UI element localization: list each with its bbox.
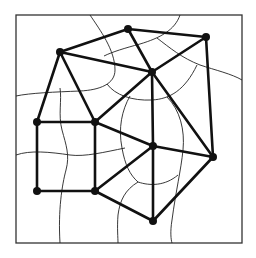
dual-curve-6 xyxy=(16,148,125,155)
edge-A-B xyxy=(60,29,128,52)
vertex-F xyxy=(91,118,99,126)
edge-A-F xyxy=(60,52,95,122)
edge-B-D xyxy=(128,29,152,72)
edge-C-D xyxy=(152,37,206,72)
edge-K-H xyxy=(153,157,213,221)
dual-curve-5 xyxy=(59,88,67,243)
edge-F-G xyxy=(95,122,153,146)
vertex-B xyxy=(124,25,132,33)
edge-F-D xyxy=(95,72,152,122)
vertex-D xyxy=(148,68,156,76)
graph-diagram xyxy=(0,0,256,258)
edge-A-E xyxy=(37,52,60,122)
vertex-C xyxy=(202,33,210,41)
vertex-E xyxy=(33,118,41,126)
dual-curve-8 xyxy=(167,97,183,243)
vertex-I xyxy=(33,187,41,195)
vertex-K xyxy=(149,217,157,225)
dual-curve-10 xyxy=(138,175,178,184)
edge-C-H xyxy=(206,37,213,157)
vertex-G xyxy=(149,142,157,150)
dual-curve-1 xyxy=(16,15,115,96)
edge-D-G xyxy=(152,72,153,146)
vertex-J xyxy=(91,187,99,195)
dual-curve-2 xyxy=(104,15,180,56)
graph-edges-group xyxy=(37,29,213,221)
vertex-A xyxy=(56,48,64,56)
vertex-H xyxy=(209,153,217,161)
edge-B-C xyxy=(128,29,206,37)
edge-D-H xyxy=(152,72,213,157)
